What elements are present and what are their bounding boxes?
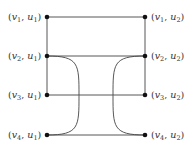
node-v2u1 [45, 54, 50, 59]
node-v1u1 [45, 15, 50, 20]
node-v3u2 [143, 93, 148, 98]
node-v2u2 [143, 54, 148, 59]
node-v4u2 [143, 133, 148, 138]
node-v4u1 [45, 133, 50, 138]
node-label-v2u2: (v2, u2) [151, 51, 184, 61]
edge-v2u2-v4u2 [113, 56, 145, 135]
node-label-v3u2: (v3, u2) [151, 90, 184, 100]
node-v1u2 [143, 15, 148, 20]
node-label-v4u2: (v4, u2) [151, 130, 184, 140]
product-graph-diagram: (v1, u1)(v2, u1)(v3, u1)(v4, u1)(v1, u2)… [0, 0, 193, 150]
node-label-v1u2: (v1, u2) [151, 12, 184, 22]
node-label-v1u1: (v1, u1) [8, 12, 41, 22]
node-label-v4u1: (v4, u1) [8, 130, 41, 140]
node-v3u1 [45, 93, 50, 98]
node-label-v2u1: (v2, u1) [8, 51, 41, 61]
node-label-v3u1: (v3, u1) [8, 90, 41, 100]
edge-v2u1-v4u1 [47, 56, 79, 135]
